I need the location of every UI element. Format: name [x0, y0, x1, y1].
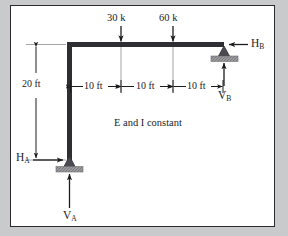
reaction-HA-subscript: A [24, 156, 29, 165]
support-a [56, 156, 83, 172]
reaction-VA-label: VA [63, 210, 77, 222]
support-b [211, 46, 238, 62]
support-b-triangle [219, 46, 230, 56]
load-30k-label: 30 k [107, 13, 125, 24]
applied-loads [121, 26, 173, 42]
dimension-10ft-label-1: 10 ft [84, 81, 103, 91]
dimension-extension-lines [26, 45, 173, 161]
dimension-10ft-label-2: 10 ft [136, 81, 155, 91]
reaction-HB-subscript: B [259, 42, 264, 51]
dimension-10ft-label-3: 10 ft [187, 81, 206, 91]
reaction-VA-subscript: A [71, 214, 76, 223]
reaction-HB-label: HB [251, 38, 264, 50]
figure-root: 30 k 60 k 20 ft 10 ft 10 ft 10 ft E and … [0, 0, 288, 236]
load-60k-label: 60 k [159, 13, 177, 24]
support-b-base-plate [211, 56, 238, 62]
dimension-20ft-label: 20 ft [22, 79, 41, 89]
support-a-triangle [64, 156, 75, 167]
frame-members [67, 42, 224, 163]
reaction-HA-label: HA [16, 152, 30, 164]
reaction-VB-label: VB [218, 90, 231, 102]
support-a-base-plate [56, 167, 83, 173]
reaction-VB-subscript: B [226, 94, 231, 103]
material-note: E and I constant [114, 118, 182, 129]
